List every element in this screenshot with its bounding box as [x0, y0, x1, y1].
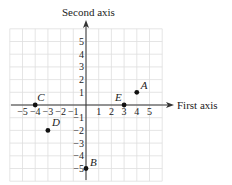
point-label: A — [140, 79, 148, 91]
y-tick-label: −3 — [73, 138, 84, 149]
y-tick-label: −4 — [73, 150, 84, 161]
point-marker-icon — [122, 103, 127, 108]
x-tick-label: −5 — [17, 106, 28, 117]
y-tick-label: 4 — [79, 49, 84, 60]
y-axis-label: Second axis — [62, 6, 115, 18]
y-tick-label: −5 — [73, 163, 84, 174]
x-tick-label: −3 — [43, 106, 54, 117]
point-marker-icon — [46, 128, 51, 133]
x-tick-label: 2 — [109, 106, 114, 117]
y-tick-label: 5 — [79, 36, 84, 47]
point-marker-icon — [84, 166, 89, 171]
x-tick-labels: −5−4−3−2−112345 — [17, 106, 152, 117]
x-tick-label: 5 — [147, 106, 152, 117]
point-label: B — [90, 156, 97, 168]
point-label: C — [37, 91, 45, 103]
y-tick-label: −2 — [73, 125, 84, 136]
x-axis-label: First axis — [177, 99, 218, 111]
points: ABCDE — [33, 79, 148, 171]
coordinate-plane: First axis Second axis −5−4−3−2−112345 5… — [0, 0, 232, 185]
x-tick-label: −2 — [55, 106, 66, 117]
x-tick-label: 3 — [122, 106, 127, 117]
x-tick-label: −4 — [30, 106, 41, 117]
x-tick-label: 4 — [134, 106, 139, 117]
point-label: E — [114, 91, 122, 103]
x-tick-label: 1 — [96, 106, 101, 117]
point-marker-icon — [134, 90, 139, 95]
point-marker-icon — [33, 103, 38, 108]
y-tick-label: 1 — [79, 87, 84, 98]
y-tick-label: −1 — [73, 112, 84, 123]
y-tick-label: 3 — [79, 61, 84, 72]
point-label: D — [51, 116, 60, 128]
y-tick-label: 2 — [79, 74, 84, 85]
